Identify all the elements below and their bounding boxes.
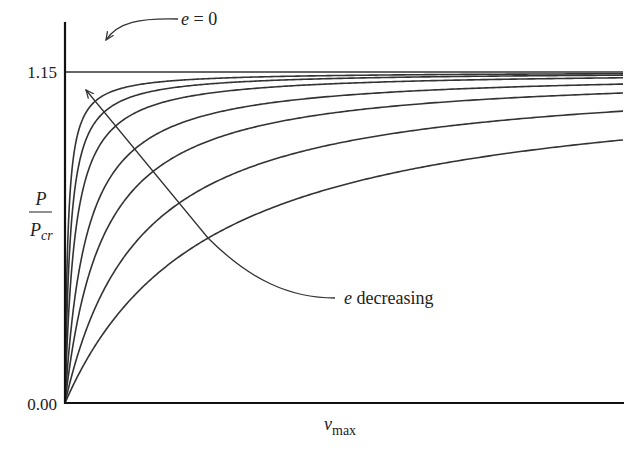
y-axis-label-den-main: P (29, 220, 41, 240)
y-axis-label-denominator: Pcr (29, 220, 53, 243)
e-decreasing-text: decreasing (352, 288, 433, 308)
e-zero-arrow (106, 19, 178, 40)
e-decreasing-label: e decreasing (344, 288, 433, 308)
y-tick-label-bottom: 0.00 (27, 395, 57, 414)
chart: 1.15 0.00 P Pcr vmax e = 0 e decreasing (0, 0, 640, 450)
curve-7 (65, 140, 623, 403)
x-axis-label: vmax (324, 414, 356, 438)
curves-group (65, 72, 623, 403)
y-axis-label-numerator: P (35, 189, 47, 209)
e-decreasing-symbol: e (344, 288, 352, 308)
x-axis-label-main: v (324, 414, 332, 434)
y-tick-label-top: 1.15 (27, 63, 57, 82)
y-axis-label-den-sub: cr (41, 228, 53, 243)
curve-3 (65, 78, 623, 403)
curve-1 (65, 74, 623, 403)
e-zero-label: e = 0 (181, 9, 217, 29)
e-zero-text: = 0 (189, 9, 217, 29)
e-zero-symbol: e (181, 9, 189, 29)
curve-4 (65, 84, 623, 403)
curve-6 (65, 111, 623, 403)
e-decreasing-arrow (86, 90, 335, 298)
curve-2 (65, 75, 623, 403)
x-axis-label-sub: max (332, 423, 356, 438)
y-axis-label: P Pcr (29, 189, 53, 243)
